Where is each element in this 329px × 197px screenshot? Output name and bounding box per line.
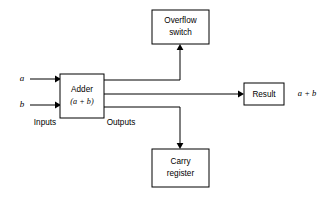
adder-label-line2: (a + b) [70, 97, 94, 106]
wire-adder-to-result [104, 91, 244, 98]
outputs-group-label: Outputs [107, 118, 136, 127]
wire-adder-to-overflow [104, 44, 183, 80]
overflow-switch-label-line2: switch [169, 28, 192, 37]
overflow-switch-node: Overflow switch [152, 10, 209, 44]
carry-register-node: Carry register [152, 149, 209, 187]
adder-block-diagram: Overflow switch Adder (a + b) Result Car… [0, 0, 329, 197]
inputs-group-label: Inputs [34, 118, 56, 127]
result-node: Result [244, 83, 284, 105]
input-label-b: b [20, 99, 25, 109]
carry-register-label-line1: Carry [170, 157, 191, 166]
adder-label-line1: Adder [71, 85, 93, 94]
overflow-switch-box [152, 10, 209, 44]
carry-register-label-line2: register [167, 169, 195, 178]
output-expression-label: a + b [298, 88, 317, 98]
wire-adder-to-carry [104, 107, 183, 149]
adder-node: Adder (a + b) [60, 74, 104, 118]
overflow-switch-label-line1: Overflow [164, 16, 196, 25]
input-label-a: a [20, 73, 25, 83]
input-wire-a [30, 76, 61, 83]
result-label: Result [252, 90, 276, 99]
input-wire-b [30, 102, 61, 109]
diagram-canvas: Overflow switch Adder (a + b) Result Car… [0, 0, 329, 197]
carry-register-box [152, 149, 209, 187]
